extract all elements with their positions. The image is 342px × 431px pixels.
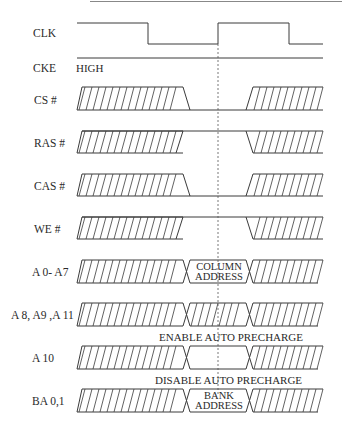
hatch-line — [149, 260, 155, 283]
hatch-line — [128, 389, 134, 412]
hatch-line — [170, 87, 176, 110]
hatch-line — [261, 346, 267, 369]
hatch-line — [289, 217, 295, 239]
hatch-line — [86, 87, 92, 110]
hatch-line — [282, 389, 288, 412]
hatch-line — [163, 389, 169, 412]
hatch-line — [128, 260, 134, 283]
hatch-line — [317, 303, 323, 326]
hatch-line — [107, 217, 113, 239]
hatch-line — [156, 174, 162, 196]
hatch-line — [254, 87, 260, 110]
hatch-line — [142, 346, 148, 369]
hatch-line — [121, 389, 127, 412]
hatch-line — [268, 217, 274, 239]
hatch-line — [156, 217, 162, 239]
hatch-line — [317, 87, 323, 110]
hatch-line — [142, 260, 148, 283]
bus-dontcare-left — [77, 303, 187, 326]
hatch-line — [205, 303, 211, 326]
hatch-line — [142, 87, 148, 110]
hatch-line — [142, 217, 148, 239]
hatch-line — [107, 303, 113, 326]
hatch-line — [114, 346, 120, 369]
hatch-line — [100, 217, 106, 239]
hatch-line — [93, 174, 99, 196]
hatch-line — [261, 217, 267, 239]
hatch-line — [86, 131, 92, 153]
hatch-line — [261, 131, 267, 153]
label-a10: A 10 — [32, 352, 54, 364]
hatch-line — [254, 389, 260, 412]
hatch-line — [128, 346, 134, 369]
hatch-line — [100, 389, 106, 412]
hatch-line — [128, 217, 134, 239]
hatch-line — [156, 389, 162, 412]
hatch-line — [282, 174, 288, 196]
hatch-line — [226, 303, 232, 326]
falling-edge — [246, 131, 253, 153]
hatch-line — [142, 389, 148, 412]
hatch-line — [289, 131, 295, 153]
hatch-line — [142, 303, 148, 326]
hatch-line — [100, 174, 106, 196]
hatch-line — [303, 87, 309, 110]
hatch-line — [149, 87, 155, 110]
hatch-line — [296, 346, 302, 369]
hatch-line — [156, 303, 162, 326]
hatch-line — [135, 346, 141, 369]
hatch-line — [163, 260, 169, 283]
hatch-line — [303, 174, 309, 196]
hatch-line — [107, 87, 113, 110]
hatch-line — [107, 174, 113, 196]
hatch-line — [100, 87, 106, 110]
hatch-line — [289, 346, 295, 369]
hatch-line — [156, 131, 162, 153]
hatch-line — [296, 87, 302, 110]
hatch-line — [254, 217, 260, 239]
hatch-line — [268, 174, 274, 196]
hatch-line — [114, 217, 120, 239]
hatch-line — [156, 87, 162, 110]
waveforms: COLUMNADDRESSBANKADDRESS — [77, 23, 323, 412]
band-edge — [176, 131, 183, 153]
hatch-line — [282, 217, 288, 239]
falling-edge — [183, 174, 190, 196]
hatch-line — [268, 389, 274, 412]
hatch-line — [275, 303, 281, 326]
hatch-line — [261, 303, 267, 326]
hatch-line — [289, 260, 295, 283]
hatch-line — [289, 389, 295, 412]
hatch-line — [93, 217, 99, 239]
hatch-line — [128, 174, 134, 196]
falling-edge — [183, 87, 190, 110]
hatch-line — [310, 389, 316, 412]
hatch-line — [93, 389, 99, 412]
hatch-line — [142, 174, 148, 196]
hatch-line — [282, 303, 288, 326]
hatch-line — [261, 87, 267, 110]
disable-auto-precharge-note: DISABLE AUTO PRECHARGE — [155, 374, 302, 386]
hatch-line — [170, 174, 176, 196]
hatch-line — [268, 87, 274, 110]
hatch-line — [163, 217, 169, 239]
hatch-line — [275, 174, 281, 196]
hatch-line — [121, 174, 127, 196]
hatch-line — [170, 346, 176, 369]
rising-edge — [246, 87, 253, 110]
hatch-line — [170, 389, 176, 412]
hatch-line — [296, 260, 302, 283]
bus-value-text: ADDRESS — [195, 271, 243, 282]
hatch-line — [135, 260, 141, 283]
hatch-line — [114, 131, 120, 153]
hatch-line — [149, 303, 155, 326]
hatch-line — [303, 389, 309, 412]
hatch-line — [310, 260, 316, 283]
hatch-line — [310, 303, 316, 326]
hatch-line — [289, 303, 295, 326]
hatch-line — [282, 346, 288, 369]
hatch-line — [86, 260, 92, 283]
label-cke: CKE — [33, 62, 56, 74]
hatch-line — [135, 87, 141, 110]
hatch-line — [114, 389, 120, 412]
